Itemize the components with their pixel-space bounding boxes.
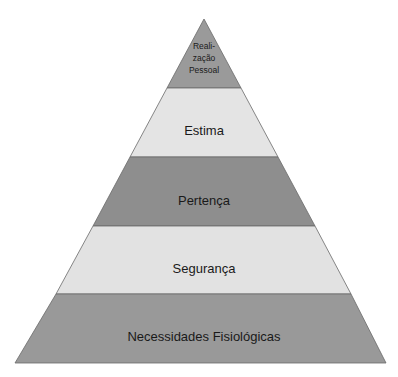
label-pertenca: Pertença bbox=[178, 193, 231, 208]
label-realizacao-line1: Reali- bbox=[193, 41, 215, 51]
label-estima: Estima bbox=[184, 123, 225, 138]
level-seguranca bbox=[56, 226, 351, 294]
level-pertenca bbox=[93, 157, 315, 226]
maslow-pyramid: Reali- zação Pessoal Estima Pertença Seg… bbox=[0, 0, 398, 377]
label-necessidades-fisiologicas: Necessidades Fisiológicas bbox=[127, 329, 281, 344]
label-realizacao-line2: zação bbox=[193, 53, 216, 63]
label-realizacao-line3: Pessoal bbox=[189, 65, 219, 75]
label-seguranca: Segurança bbox=[173, 261, 237, 276]
